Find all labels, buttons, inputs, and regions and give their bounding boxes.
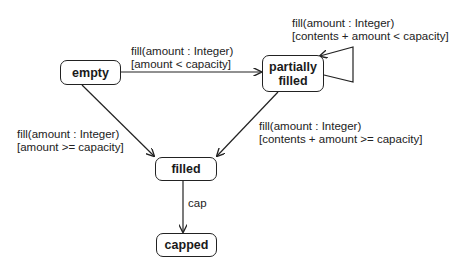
state-partially-filled-line2: filled xyxy=(269,74,317,88)
event-text: fill(amount : Integer) xyxy=(259,120,422,133)
guard-text: [contents + amount >= capacity] xyxy=(259,133,422,146)
label-empty-to-partial: fill(amount : Integer) [amount < capacit… xyxy=(131,45,233,71)
event-text: fill(amount : Integer) xyxy=(131,45,233,58)
guard-text: [amount < capacity] xyxy=(131,58,233,71)
state-capped-label: capped xyxy=(165,238,209,252)
guard-text: [contents + amount < capacity] xyxy=(292,30,449,43)
label-filled-to-capped: cap xyxy=(188,197,207,210)
state-empty[interactable]: empty xyxy=(60,60,121,85)
event-text: fill(amount : Integer) xyxy=(292,17,449,30)
state-filled-label: filled xyxy=(171,162,200,176)
event-text: fill(amount : Integer) xyxy=(17,128,124,141)
guard-text: [amount >= capacity] xyxy=(17,141,124,154)
label-partial-to-filled: fill(amount : Integer) [contents + amoun… xyxy=(259,120,422,146)
label-partial-self-loop: fill(amount : Integer) [contents + amoun… xyxy=(292,17,449,43)
event-text: cap xyxy=(188,197,207,210)
label-empty-to-filled: fill(amount : Integer) [amount >= capaci… xyxy=(17,128,124,154)
state-capped[interactable]: capped xyxy=(156,233,217,257)
state-filled[interactable]: filled xyxy=(155,157,217,181)
state-partially-filled[interactable]: partially filled xyxy=(262,55,324,92)
state-empty-label: empty xyxy=(72,66,109,80)
edge-partial-self-loop xyxy=(320,47,353,82)
state-partially-filled-line1: partially xyxy=(269,60,317,74)
